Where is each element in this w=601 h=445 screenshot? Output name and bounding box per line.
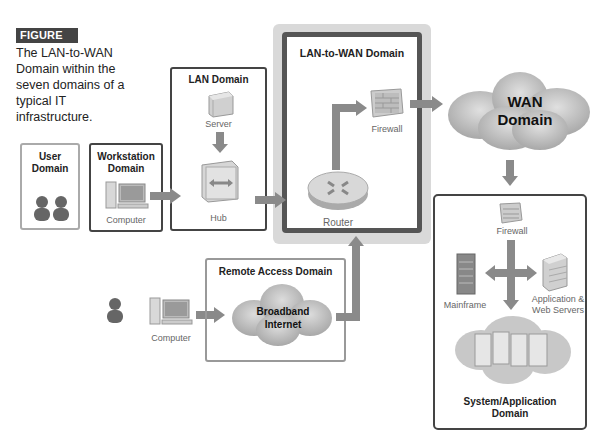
figure-badge: FIGURE 11-1 (16, 28, 78, 43)
firewall-icon (369, 87, 405, 119)
firewall-to-wan-arrowhead (432, 96, 443, 112)
wan-to-system-arrow (506, 160, 514, 176)
server-cluster-icon (453, 314, 573, 388)
workstation-domain-title-line2: Domain (91, 163, 161, 175)
router-icon (306, 170, 370, 212)
workstation-domain-box: Workstation Domain Computer (89, 143, 163, 232)
system-firewall-icon (499, 202, 523, 224)
lan-to-wan-domain-title: LAN-to-WAN Domain (287, 47, 417, 59)
hub-to-router-arrowhead (275, 192, 286, 208)
remote-access-domain-title: Remote Access Domain (207, 266, 344, 278)
lan-domain-box: LAN Domain Server Hub (170, 67, 267, 231)
workstation-computer-label: Computer (91, 215, 161, 225)
figure-caption: The LAN-to-WAN Domain within the seven d… (16, 45, 126, 125)
lan-domain-title: LAN Domain (172, 74, 265, 86)
wan-domain-title: WAN Domain (490, 93, 560, 129)
server-label: Server (172, 119, 265, 129)
hub-label: Hub (172, 213, 265, 223)
left-arrowhead (485, 265, 495, 281)
hub-to-router-arrow (255, 196, 275, 204)
mainframe-label: Mainframe (439, 300, 491, 310)
remote-user-icon (105, 297, 125, 323)
user-domain-title-line2: Domain (22, 163, 78, 175)
right-arrowhead (527, 265, 537, 281)
broadband-line2: Internet (250, 318, 316, 331)
application-servers-label: Application & Web Servers (529, 294, 587, 316)
system-firewall-label: Firewall (485, 226, 539, 236)
workstation-to-hub-arrowhead (170, 188, 181, 204)
remote-computer-label: Computer (146, 333, 196, 343)
workstation-domain-title: Workstation Domain (91, 151, 161, 175)
users-icon (32, 195, 72, 221)
wan-to-system-arrowhead (502, 176, 518, 186)
router-to-firewall-arrow-horizontal (332, 104, 356, 112)
remote-to-router-arrowhead (348, 236, 364, 246)
firewall-down-arrowhead (503, 300, 519, 310)
computer-icon (104, 180, 150, 212)
broadband-internet-label: Broadband Internet (250, 305, 316, 331)
hub-icon (198, 159, 242, 203)
mainframe-icon (455, 252, 479, 296)
remote-computer-icon (148, 296, 194, 328)
workstation-to-hub-arrow (150, 192, 170, 200)
application-servers-icon (539, 252, 569, 292)
servers-label-line1: Application & (529, 294, 587, 305)
system-application-domain-title: System/Application Domain (435, 396, 585, 420)
firewall-label: Firewall (364, 124, 410, 134)
router-label: Router (310, 217, 366, 228)
mainframe-servers-arrow (495, 269, 527, 277)
server-icon (205, 90, 235, 118)
system-title-line2: Domain (435, 408, 585, 420)
wan-title-line2: Domain (490, 111, 560, 129)
remote-to-router-arrow-vertical (352, 246, 360, 321)
server-to-hub-arrow (216, 132, 224, 144)
wan-title-line1: WAN (490, 93, 560, 111)
firewall-to-wan-arrow (410, 100, 432, 108)
broadband-line1: Broadband (250, 305, 316, 318)
user-domain-title-line1: User (22, 151, 78, 163)
user-domain-title: User Domain (22, 151, 78, 175)
router-to-firewall-arrow-vertical (332, 104, 340, 170)
user-domain-box: User Domain (20, 143, 80, 230)
workstation-domain-title-line1: Workstation (91, 151, 161, 163)
system-application-domain-box: Firewall Mainframe Application & Web Ser… (433, 194, 587, 430)
router-to-firewall-arrowhead (356, 100, 367, 116)
system-title-line1: System/Application (435, 396, 585, 408)
server-to-hub-arrowhead (212, 144, 228, 153)
